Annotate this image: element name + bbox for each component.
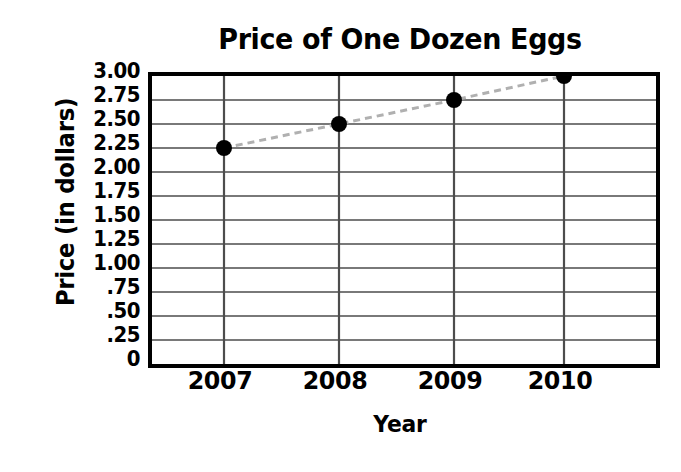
x-axis-tick-labels: 2007200820092010 [148, 366, 652, 400]
y-tick-label: .50 [63, 301, 140, 322]
y-tick-label: .25 [63, 325, 140, 346]
chart-figure: Price of One Dozen Eggs Price (in dollar… [0, 0, 681, 472]
data-point-2007[interactable]: 2007: 2.25 [216, 140, 232, 156]
chart-title: Price of One Dozen Eggs [166, 22, 635, 56]
data-point-markers: 2007: 2.252008: 2.52009: 2.752010: 3 [216, 76, 572, 156]
data-point-2008[interactable]: 2008: 2.5 [331, 116, 347, 132]
x-tick-label-2008: 2008 [278, 366, 392, 395]
y-tick-label: 1.50 [63, 205, 140, 226]
y-tick-label: 2.75 [63, 85, 140, 106]
data-line-path [224, 76, 564, 148]
y-tick-label: 0 [63, 349, 140, 370]
horizontal-gridlines [152, 100, 656, 340]
y-tick-label: 3.00 [63, 61, 140, 82]
data-line [224, 76, 564, 148]
data-point-2009[interactable]: 2009: 2.75 [446, 92, 462, 108]
x-tick-label-2010: 2010 [503, 366, 617, 395]
y-axis-tick-labels: 3.002.752.502.252.001.751.501.251.00.75.… [58, 72, 140, 360]
y-tick-label: 2.00 [63, 157, 140, 178]
y-tick-label: 1.25 [63, 229, 140, 250]
y-tick-label: .75 [63, 277, 140, 298]
plot-svg: 2007: 2.252008: 2.52009: 2.752010: 3 [152, 76, 656, 364]
data-point-2010[interactable]: 2010: 3 [556, 76, 572, 84]
y-tick-label: 1.75 [63, 181, 140, 202]
y-tick-label: 2.50 [63, 109, 140, 130]
x-tick-label-2009: 2009 [393, 366, 507, 395]
y-tick-label: 1.00 [63, 253, 140, 274]
x-tick-label-2007: 2007 [163, 366, 277, 395]
plot-area: 2007: 2.252008: 2.52009: 2.752010: 3 [148, 72, 660, 368]
x-axis-title: Year [161, 411, 640, 437]
y-tick-label: 2.25 [63, 133, 140, 154]
